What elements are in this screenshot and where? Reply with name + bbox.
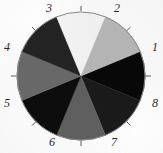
pie-tick-6 (31, 121, 43, 133)
pie-label-8: 8 (152, 97, 158, 109)
pie-tick-3 (80, 5, 92, 17)
pie-tick-2 (126, 26, 138, 38)
pie-label-5: 5 (4, 97, 10, 109)
pie-tick-8 (126, 121, 138, 133)
pie-tick-5 (10, 75, 22, 87)
pie-label-6: 6 (49, 136, 55, 148)
pie-label-7: 7 (111, 136, 117, 148)
pie-tick-4 (31, 26, 43, 38)
pie-tick-7 (80, 140, 92, 152)
pie-label-2: 2 (114, 2, 120, 14)
pie-label-1: 1 (152, 41, 158, 53)
pie-chart-figure: 12345678 (0, 0, 163, 153)
pie-tick-1 (145, 75, 157, 87)
pie-label-4: 4 (4, 41, 10, 53)
pie-label-3: 3 (46, 2, 52, 14)
